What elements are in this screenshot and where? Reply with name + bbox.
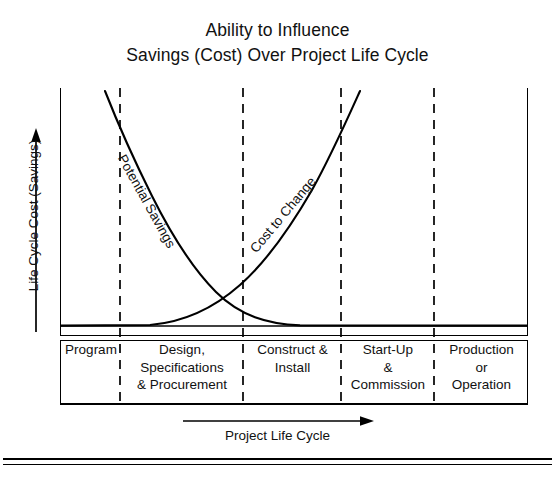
phase-cell-program: Program [62, 341, 120, 359]
chart-canvas [0, 0, 555, 477]
phase-production-line1: Production [436, 341, 527, 359]
curve-potential-savings [105, 91, 527, 326]
phase-design-line2: Specifications [122, 359, 242, 377]
phase-startup-line2: & [343, 359, 433, 377]
phase-cell-startup: Start-Up & Commission [343, 341, 433, 394]
phase-production-line2: or [436, 359, 527, 377]
phase-design-line1: Design, [122, 341, 242, 359]
phase-construct-line2: Install [245, 359, 340, 377]
footer-rule [3, 459, 552, 465]
x-axis-label: Project Life Cycle [0, 428, 555, 443]
phase-program-line1: Program [62, 341, 120, 359]
y-axis-label: Life Cycle Cost (Savings) [26, 111, 41, 321]
phase-cell-construct: Construct & Install [245, 341, 340, 376]
x-axis-arrow [183, 416, 374, 426]
phase-cell-design: Design, Specifications & Procurement [122, 341, 242, 394]
phase-startup-line3: Commission [343, 376, 433, 394]
phase-construct-line1: Construct & [245, 341, 340, 359]
phase-startup-line1: Start-Up [343, 341, 433, 359]
figure-root: Ability to Influence Savings (Cost) Over… [0, 0, 555, 477]
curve-cost-to-change [61, 91, 360, 326]
phase-design-line3: & Procurement [122, 376, 242, 394]
phase-cell-production: Production or Operation [436, 341, 527, 394]
phase-production-line3: Operation [436, 376, 527, 394]
